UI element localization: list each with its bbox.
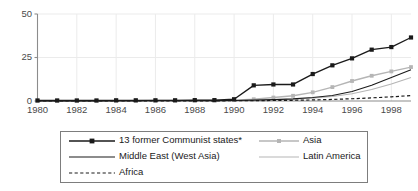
data-point-marker [271, 82, 275, 86]
y-tick-label: 25 [2, 51, 32, 62]
legend-entry-label: Africa [119, 166, 143, 177]
series-line [38, 70, 412, 101]
data-point-marker [370, 48, 374, 52]
x-tick-label: 1998 [371, 104, 411, 115]
data-point-marker [193, 98, 197, 102]
x-tick-label: 1982 [57, 104, 97, 115]
data-point-marker [291, 82, 295, 86]
data-point-marker [330, 63, 334, 67]
x-tick-label: 1990 [214, 104, 254, 115]
series-line [38, 67, 412, 101]
data-point-marker [75, 98, 79, 102]
data-point-marker [153, 98, 157, 102]
legend-entry-label: Latin America [303, 150, 361, 161]
legend-swatch-marker [277, 139, 281, 143]
data-point-marker [173, 98, 177, 102]
chart-legend: 13 former Communist states*Middle East (… [60, 131, 368, 183]
data-point-marker [389, 70, 393, 74]
x-tick-label: 1986 [135, 104, 175, 115]
data-point-marker [409, 65, 413, 69]
data-point-marker [350, 79, 354, 83]
x-tick-label: 1984 [96, 104, 136, 115]
data-point-marker [232, 97, 236, 101]
x-tick-label: 1992 [253, 104, 293, 115]
data-point-marker [134, 98, 138, 102]
x-tick-label: 1988 [175, 104, 215, 115]
legend-entry-label: Asia [303, 134, 321, 145]
data-point-marker [409, 35, 413, 39]
data-point-marker [389, 45, 393, 49]
data-point-marker [350, 56, 354, 60]
data-point-marker [311, 90, 315, 94]
data-point-marker [114, 98, 118, 102]
line-chart: 02550 1980198219841986198819901992199419… [0, 0, 418, 191]
data-point-marker [94, 98, 98, 102]
legend-swatch-marker [90, 139, 95, 144]
data-point-marker [212, 98, 216, 102]
data-point-marker [291, 94, 295, 98]
y-tick-label: 50 [2, 8, 32, 19]
legend-entry-label: 13 former Communist states* [119, 134, 242, 145]
data-point-marker [35, 98, 39, 102]
x-tick-label: 1994 [293, 104, 333, 115]
series-line [38, 78, 412, 101]
x-tick-label: 1996 [332, 104, 372, 115]
data-point-marker [311, 72, 315, 76]
data-point-marker [370, 74, 374, 78]
data-point-marker [330, 85, 334, 89]
data-point-marker [55, 98, 59, 102]
data-point-marker [271, 96, 275, 100]
legend-entry-label: Middle East (West Asia) [119, 150, 220, 161]
x-tick-label: 1980 [18, 104, 58, 115]
data-point-marker [252, 83, 256, 87]
